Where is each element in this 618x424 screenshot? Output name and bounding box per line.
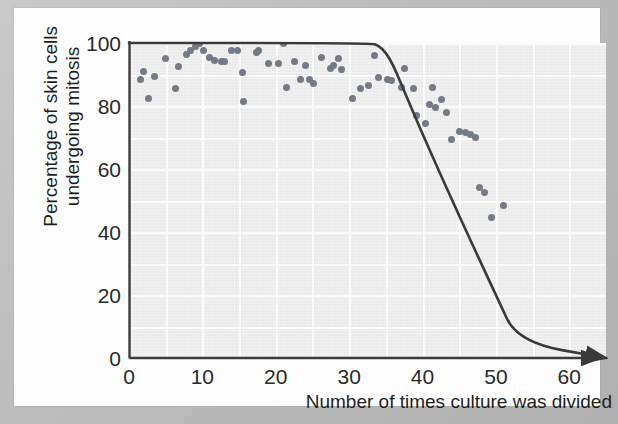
x-axis-title: Number of times culture was divided bbox=[242, 391, 612, 413]
figure-frame: 020406080100 0102030405060 Percentage of… bbox=[0, 0, 618, 424]
x-tick-label: 50 bbox=[471, 366, 521, 387]
figure-page: 020406080100 0102030405060 Percentage of… bbox=[14, 8, 600, 406]
y-tick-label: 20 bbox=[75, 285, 121, 306]
trend-curve bbox=[129, 43, 606, 358]
x-tick-label: 10 bbox=[177, 366, 227, 387]
x-tick-label: 60 bbox=[544, 366, 594, 387]
x-tick-label: 30 bbox=[324, 366, 374, 387]
x-tick-label: 20 bbox=[251, 366, 301, 387]
y-axis-title: Percentage of skin cells undergoing mito… bbox=[40, 0, 85, 256]
x-tick-label: 40 bbox=[398, 366, 448, 387]
x-tick-label: 0 bbox=[104, 366, 154, 387]
